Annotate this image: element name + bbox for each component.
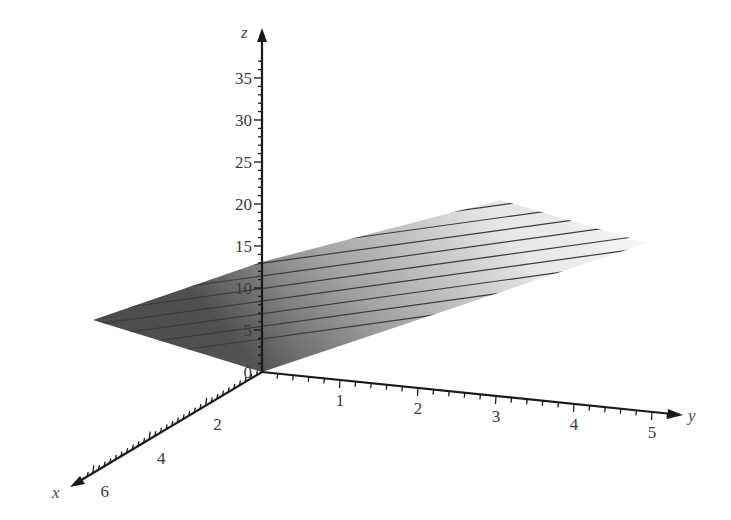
surface-plot-3d: 05101520253035 z 12345 y 246 x (0, 0, 731, 520)
y-tick-label: 5 (648, 423, 657, 442)
x-tick-label: 2 (213, 415, 222, 434)
z-tick-label: 30 (235, 111, 252, 130)
z-axis-arrow-icon (257, 28, 267, 42)
contour-line (40, 89, 700, 181)
z-tick-label: 10 (235, 279, 252, 298)
z-tick-label: 5 (244, 321, 253, 340)
z-axis-label: z (240, 23, 248, 42)
z-tick-label: 35 (235, 69, 252, 88)
z-tick-label: 20 (235, 195, 252, 214)
contour-line (40, 102, 700, 194)
y-axis-label: y (686, 406, 696, 425)
x-axis-arrow-icon (70, 476, 85, 487)
z-tick-label: 15 (235, 237, 252, 256)
y-tick-label: 4 (570, 415, 579, 434)
contour-line (40, 127, 700, 219)
y-tick-label: 3 (492, 407, 501, 426)
x-tick-label: 6 (101, 482, 110, 501)
contour-line (40, 139, 700, 231)
x-axis-label: x (51, 483, 60, 502)
y-tick-label: 1 (336, 391, 345, 410)
x-axis: 246 x (51, 370, 262, 502)
contour-line (40, 114, 700, 206)
y-axis: 12345 y (262, 372, 696, 442)
x-tick-label: 4 (157, 449, 166, 468)
y-tick-label: 2 (414, 399, 423, 418)
surface (40, 89, 700, 372)
z-tick-label: 25 (235, 153, 252, 172)
y-axis-arrow-icon (667, 409, 683, 419)
